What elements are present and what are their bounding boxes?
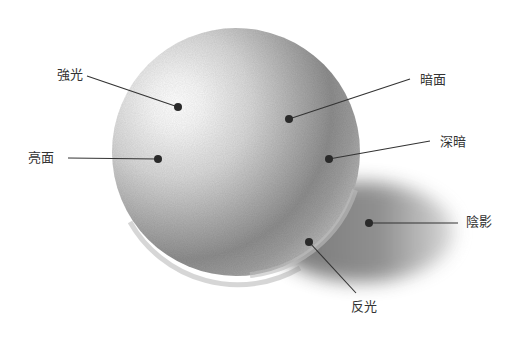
core-shadow-marker-dot [325, 155, 333, 163]
label-reflected-light: 反光 [351, 300, 377, 314]
light-side-marker-dot [154, 155, 162, 163]
dark-side-marker-dot [285, 115, 293, 123]
cast-shadow-marker-dot [365, 219, 373, 227]
reflected-light-marker-dot [305, 238, 313, 246]
label-light-side: 亮面 [28, 151, 54, 165]
label-cast-shadow: 陰影 [466, 215, 492, 229]
highlight-marker-dot [174, 103, 182, 111]
label-dark-side: 暗面 [420, 73, 446, 87]
label-core-shadow: 深暗 [440, 135, 466, 149]
sphere-diagram: 強光 亮面 暗面 深暗 陰影 反光 [0, 0, 520, 341]
sphere-illustration [0, 0, 520, 341]
label-highlight: 強光 [57, 68, 83, 82]
